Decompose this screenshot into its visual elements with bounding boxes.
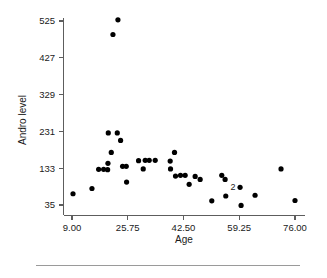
data-point — [193, 174, 198, 179]
data-point — [172, 150, 177, 155]
x-tick-label: 42.50 — [172, 222, 196, 233]
data-point — [109, 150, 114, 155]
data-point — [168, 158, 173, 163]
data-point — [223, 177, 228, 182]
point-count-annotations: 2 — [231, 182, 236, 192]
overlap-count-label: 2 — [231, 182, 236, 192]
data-point — [106, 130, 111, 135]
data-point — [89, 186, 94, 191]
data-point — [278, 166, 283, 171]
y-axis-title: Andro level — [17, 95, 28, 145]
data-point — [70, 191, 75, 196]
data-point — [141, 166, 146, 171]
data-point — [219, 173, 224, 178]
x-tick-label: 59.25 — [227, 222, 251, 233]
data-point — [153, 158, 158, 163]
x-tick-label: 25.75 — [116, 222, 140, 233]
x-tick-label: 76.00 — [283, 222, 307, 233]
y-tick-label: 231 — [39, 126, 55, 137]
andro-level-vs-age-scatter-chart: 35133231329427525 9.0025.7542.5059.2576.… — [0, 0, 327, 278]
data-point — [187, 182, 192, 187]
data-point — [105, 167, 110, 172]
data-point — [173, 173, 178, 178]
data-point — [168, 166, 173, 171]
data-point — [209, 198, 214, 203]
data-point — [124, 179, 129, 184]
y-tick-label: 427 — [39, 52, 55, 63]
data-point — [252, 193, 257, 198]
data-point — [292, 198, 297, 203]
data-point — [105, 161, 110, 166]
data-point — [96, 167, 101, 172]
data-point — [198, 177, 203, 182]
y-tick-label: 35 — [44, 199, 55, 210]
data-point — [118, 138, 123, 143]
data-point — [178, 173, 183, 178]
data-point — [223, 193, 228, 198]
scatter-plot-figure: 35133231329427525 9.0025.7542.5059.2576.… — [0, 0, 327, 278]
data-point — [110, 32, 115, 37]
data-point — [115, 17, 120, 22]
data-point — [183, 173, 188, 178]
x-axis-title: Age — [175, 234, 193, 245]
y-tick-label: 329 — [39, 89, 55, 100]
data-point — [237, 185, 242, 190]
chart-background — [0, 0, 327, 278]
data-point — [115, 130, 120, 135]
data-point — [147, 158, 152, 163]
data-point — [238, 203, 243, 208]
y-tick-label: 133 — [39, 163, 55, 174]
data-point — [136, 158, 141, 163]
data-point — [124, 164, 129, 169]
x-tick-label: 9.00 — [63, 222, 82, 233]
y-tick-label: 525 — [39, 15, 55, 26]
